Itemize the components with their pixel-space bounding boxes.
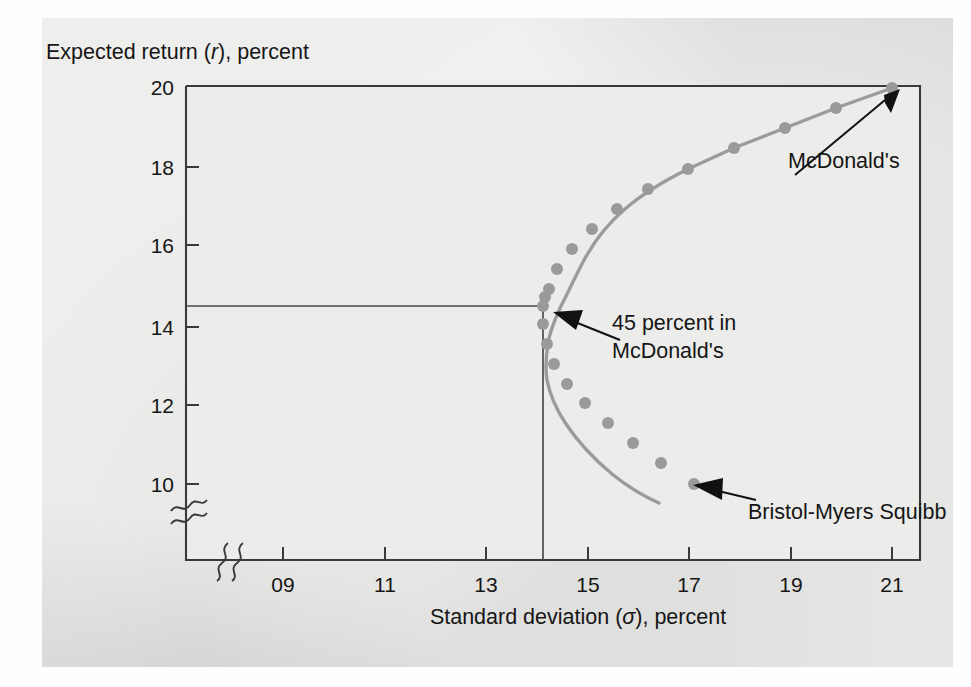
x-axis-title: Standard deviation (σ), percent (430, 605, 726, 629)
figure-panel: Expected return (r), percent 20 18 16 14… (0, 0, 971, 687)
y-axis-title-prefix: Expected return ( (46, 40, 212, 64)
x-tick-label-21: 21 (880, 573, 903, 596)
x-tick-label-09: 09 (271, 573, 294, 596)
y-axis-title: Expected return (r), percent (46, 40, 309, 64)
x-axis-title-suffix: ), percent (635, 605, 726, 629)
x-tick-label-11: 11 (374, 573, 396, 596)
x-tick-label-13: 13 (474, 573, 497, 596)
x-tick-label-17: 17 (677, 573, 700, 596)
annotation-label-min-variance-line1: 45 percent in (612, 311, 736, 335)
x-tick-label-15: 15 (576, 573, 599, 596)
annotation-label-bristol: Bristol-Myers Squibb (748, 500, 946, 524)
y-tick-label-16: 16 (151, 234, 174, 257)
x-tick-label-19: 19 (779, 573, 802, 596)
y-tick-label-20: 20 (151, 76, 174, 99)
y-tick-label-14: 14 (151, 316, 175, 339)
y-tick-label-10: 10 (151, 473, 174, 496)
x-axis-title-symbol: σ (622, 605, 636, 629)
y-tick-label-12: 12 (151, 394, 174, 417)
efficient-frontier-chart: Expected return (r), percent 20 18 16 14… (0, 0, 971, 687)
x-axis-title-prefix: Standard deviation ( (430, 605, 623, 629)
y-axis-title-suffix: ), percent (218, 40, 309, 64)
y-tick-label-18: 18 (151, 156, 174, 179)
annotation-label-min-variance-line2: McDonald's (612, 339, 724, 363)
annotation-label-mcdonalds: McDonald's (788, 149, 900, 173)
